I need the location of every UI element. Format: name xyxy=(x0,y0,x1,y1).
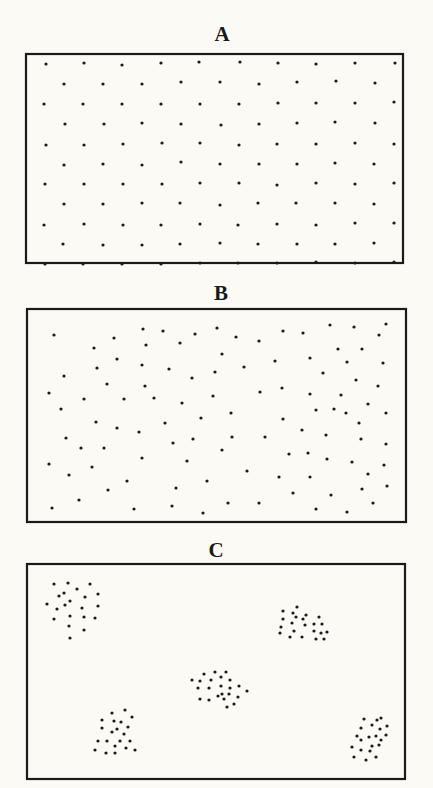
dot xyxy=(370,744,373,747)
dot xyxy=(353,101,356,104)
dot xyxy=(281,617,284,620)
dot xyxy=(115,426,118,429)
dot xyxy=(102,446,105,449)
dot xyxy=(368,749,371,752)
dot xyxy=(75,587,78,590)
dot xyxy=(79,446,82,449)
dot xyxy=(353,221,356,224)
dot xyxy=(140,121,143,124)
dot xyxy=(161,329,164,332)
dot xyxy=(43,262,46,265)
dot xyxy=(179,160,182,163)
dot xyxy=(88,582,91,585)
dot xyxy=(226,501,229,504)
dot xyxy=(353,182,356,185)
dot xyxy=(354,378,357,381)
dot xyxy=(101,82,104,85)
dot xyxy=(178,201,181,204)
dot xyxy=(345,510,348,513)
dot xyxy=(377,743,380,746)
dot xyxy=(110,730,113,733)
dot xyxy=(44,143,47,146)
dot xyxy=(295,162,298,165)
dot xyxy=(301,331,304,334)
dot xyxy=(278,631,281,634)
dot xyxy=(123,708,126,711)
dot xyxy=(140,243,143,246)
dot xyxy=(219,123,222,126)
cluster-top-left xyxy=(45,581,99,639)
dot xyxy=(245,469,248,472)
dot xyxy=(137,430,140,433)
diagram-canvas xyxy=(0,0,433,788)
dot xyxy=(144,343,147,346)
dot xyxy=(237,181,240,184)
dot xyxy=(314,181,317,184)
dot xyxy=(140,363,143,366)
dot xyxy=(245,689,248,692)
dispersion-patterns-diagram: A B C xyxy=(0,0,433,788)
dot xyxy=(276,101,279,104)
dot xyxy=(294,615,297,618)
dot xyxy=(118,739,121,742)
dot xyxy=(355,734,358,737)
dot xyxy=(317,615,320,618)
dot xyxy=(379,738,382,741)
panel-c-clumped xyxy=(27,564,405,779)
dot xyxy=(112,336,115,339)
dot xyxy=(62,163,65,166)
dot xyxy=(213,670,216,673)
dot xyxy=(350,460,353,463)
dot xyxy=(275,261,278,264)
dot xyxy=(55,607,58,610)
dot xyxy=(205,479,208,482)
dot xyxy=(120,63,123,66)
dot xyxy=(366,472,369,475)
dot xyxy=(372,241,375,244)
dot xyxy=(101,243,104,246)
dot xyxy=(257,501,260,504)
dot xyxy=(312,622,315,625)
dot xyxy=(237,102,240,105)
dot xyxy=(379,716,382,719)
dot xyxy=(167,367,170,370)
dot xyxy=(219,675,222,678)
dot xyxy=(280,386,283,389)
dot xyxy=(83,595,86,598)
dot xyxy=(220,692,223,695)
dot xyxy=(362,717,365,720)
dot xyxy=(115,727,118,730)
dot xyxy=(198,697,201,700)
dot xyxy=(314,223,317,226)
dot xyxy=(105,739,108,742)
dot xyxy=(279,625,282,628)
dot xyxy=(140,201,143,204)
dot xyxy=(230,435,233,438)
dot xyxy=(257,122,260,125)
dot xyxy=(357,421,360,424)
dot xyxy=(63,122,66,125)
dot xyxy=(122,732,125,735)
dot xyxy=(193,332,196,335)
dot xyxy=(353,141,356,144)
dot xyxy=(238,60,241,63)
dot xyxy=(275,183,278,186)
dot xyxy=(333,161,336,164)
dot xyxy=(62,202,65,205)
dot xyxy=(256,242,259,245)
dot xyxy=(77,498,80,501)
dot xyxy=(281,329,284,332)
dot xyxy=(170,504,173,507)
dot xyxy=(353,61,356,64)
dot xyxy=(332,407,335,410)
dot xyxy=(273,359,276,362)
dot xyxy=(63,603,66,606)
dot xyxy=(373,121,376,124)
dot xyxy=(236,261,239,264)
dot xyxy=(308,356,311,359)
dot xyxy=(303,623,306,626)
dot xyxy=(300,428,303,431)
dot xyxy=(360,347,363,350)
dot xyxy=(258,390,261,393)
dot xyxy=(42,223,45,226)
